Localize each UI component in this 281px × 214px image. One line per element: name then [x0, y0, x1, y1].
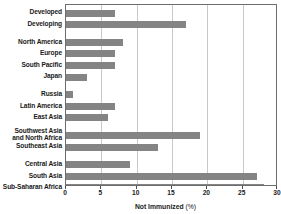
category-label-line: Southeast Asia [16, 142, 62, 149]
bar-chart: DevelopedDevelopingNorth AmericaEuropeSo… [0, 0, 281, 214]
category-label-column: DevelopedDevelopingNorth AmericaEuropeSo… [0, 4, 64, 186]
category-label-line: Japan [43, 72, 62, 79]
bar [66, 10, 115, 17]
bar [66, 132, 200, 139]
x-tick-label: 30 [273, 189, 280, 196]
x-axis-title-unit: (%) [186, 203, 197, 210]
category-label: Japan [43, 72, 62, 79]
gridline-20 [207, 5, 208, 185]
x-axis: 051015202530 [65, 186, 277, 202]
bar [66, 103, 115, 110]
category-label-line: Sub-Saharan Africa [3, 183, 62, 190]
x-axis-title: Not Immunized (%) [0, 203, 281, 210]
category-label-line: North America [18, 38, 62, 45]
category-label: Developing [27, 20, 62, 27]
plot-area [65, 4, 277, 186]
category-label: Developed [30, 8, 62, 15]
gridline-25 [243, 5, 244, 185]
bar [66, 91, 73, 98]
category-label: Europe [40, 49, 62, 56]
category-label-line: Southwest Asia [12, 127, 62, 134]
bar [66, 50, 115, 57]
category-label: Latin America [20, 102, 62, 109]
bar [66, 21, 186, 28]
bar [66, 74, 87, 81]
category-label: South Pacific [22, 61, 62, 68]
gridline-15 [172, 5, 173, 185]
category-label: Sub-Saharan Africa [3, 183, 62, 190]
x-tick-label: 20 [203, 189, 210, 196]
category-label: Central Asia [25, 160, 62, 167]
category-label-line: South Asia [29, 172, 62, 179]
bar [66, 114, 108, 121]
x-tick-label: 15 [167, 189, 174, 196]
category-label-line: Latin America [20, 102, 62, 109]
category-label: Southeast Asia [16, 142, 62, 149]
category-label-line: Europe [40, 49, 62, 56]
category-label-line: and North Africa [12, 134, 62, 141]
category-label-line: Developing [27, 20, 62, 27]
x-tick-label: 0 [63, 189, 67, 196]
gridline-10 [137, 5, 138, 185]
category-label: North America [18, 38, 62, 45]
category-label-line: Russia [41, 90, 62, 97]
x-axis-title-main: Not Immunized [135, 203, 184, 210]
category-label-line: Central Asia [25, 160, 62, 167]
x-tick-label: 25 [238, 189, 245, 196]
bar [66, 144, 158, 151]
category-label-line: East Asia [33, 113, 62, 120]
bar [66, 161, 130, 168]
category-label-line: Developed [30, 8, 62, 15]
bar [66, 39, 123, 46]
category-label: Russia [41, 90, 62, 97]
category-label-line: South Pacific [22, 61, 62, 68]
bar [66, 173, 257, 180]
gridline-5 [101, 5, 102, 185]
x-tick-label: 10 [132, 189, 139, 196]
category-label: South Asia [29, 172, 62, 179]
bar [66, 62, 115, 69]
category-label: Southwest Asiaand North Africa [12, 127, 62, 141]
category-label: East Asia [33, 113, 62, 120]
x-tick-label: 5 [98, 189, 102, 196]
